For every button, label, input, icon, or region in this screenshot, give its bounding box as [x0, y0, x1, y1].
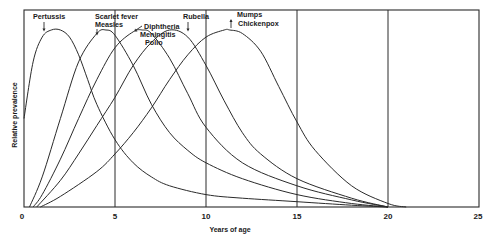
label-chickenpox: Chickenpox: [238, 19, 279, 28]
prevalence-chart: 0 5 10 15 20 25 Years of age Relative pr…: [0, 0, 497, 241]
arrowhead-pertussis: [43, 29, 46, 32]
x-tick-15: 15: [293, 212, 302, 221]
disease-annotations: Pertussis Scarlet fever Measles Diphther…: [33, 10, 279, 47]
x-tick-5: 5: [113, 212, 118, 221]
curve-diphtheria-meningitis-polio: [33, 30, 388, 207]
label-rubella: Rubella: [183, 12, 210, 21]
curve-scarlet-fever-measles: [30, 30, 389, 207]
x-axis-ticks: 0 5 10 15 20 25: [20, 212, 483, 221]
x-tick-0: 0: [20, 212, 25, 221]
arrowhead-rubella: [187, 29, 190, 32]
x-axis-label: Years of age: [209, 226, 250, 234]
curve-mumps-chickenpox: [40, 29, 406, 207]
label-mumps: Mumps: [237, 10, 262, 19]
x-tick-25: 25: [474, 212, 483, 221]
curve-rubella: [37, 30, 388, 207]
curves-group: [24, 29, 406, 207]
y-axis-label: Relative prevalence: [11, 82, 19, 147]
label-pertussis: Pertussis: [33, 12, 65, 21]
label-measles: Measles: [95, 20, 123, 29]
label-polio: Polio: [145, 38, 163, 47]
x-tick-10: 10: [202, 212, 211, 221]
arrowhead-mumps: [230, 19, 233, 22]
chart-canvas: 0 5 10 15 20 25 Years of age Relative pr…: [0, 0, 497, 241]
x-tick-20: 20: [384, 212, 393, 221]
